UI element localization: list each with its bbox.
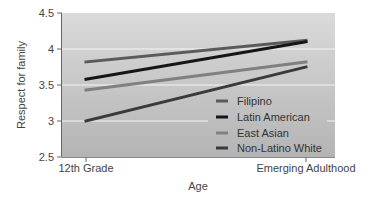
legend-label: Non-Latino White (237, 142, 322, 154)
legend-label: East Asian (237, 127, 289, 139)
y-tick-label: 4 (48, 43, 54, 55)
line-chart: 4.5 4 3.5 3 2.5 Respect for family 12th … (0, 0, 370, 198)
y-tick-label: 3 (48, 115, 54, 127)
x-tick-label: Emerging Adulthood (256, 162, 355, 174)
legend-label: Latin American (237, 111, 310, 123)
x-axis: 12th Grade Emerging Adulthood Age (58, 157, 355, 192)
x-axis-title: Age (188, 180, 208, 192)
y-tick-label: 4.5 (39, 7, 54, 19)
y-tick-label: 3.5 (39, 79, 54, 91)
y-axis-title: Respect for family (15, 40, 27, 129)
y-tick-label: 2.5 (39, 151, 54, 163)
y-axis: 4.5 4 3.5 3 2.5 Respect for family (15, 7, 62, 163)
x-tick-label: 12th Grade (58, 162, 113, 174)
legend-label: Filipino (237, 95, 272, 107)
